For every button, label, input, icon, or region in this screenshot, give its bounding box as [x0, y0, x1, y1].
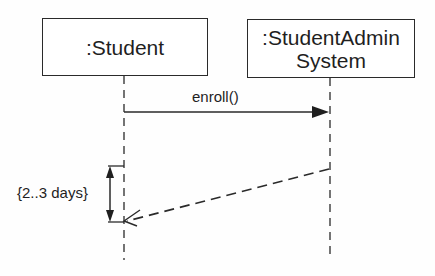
sequence-diagram: :Student :StudentAdmin System enroll() {… — [0, 0, 435, 276]
student-object-box[interactable]: :Student — [42, 18, 208, 76]
system-object-label: :StudentAdmin System — [262, 26, 400, 72]
filled-arrowhead-icon — [312, 106, 329, 118]
arrow-up-icon — [106, 166, 114, 178]
student-object-label: :Student — [86, 36, 164, 59]
enroll-message-label: enroll() — [192, 88, 239, 105]
system-object-box[interactable]: :StudentAdmin System — [247, 19, 415, 78]
system-label-line2: System — [262, 49, 400, 72]
duration-constraint-label: {2..3 days} — [17, 184, 88, 201]
reply-message-line — [127, 169, 329, 221]
arrow-down-icon — [106, 210, 114, 222]
system-label-line1: :StudentAdmin — [262, 26, 400, 49]
